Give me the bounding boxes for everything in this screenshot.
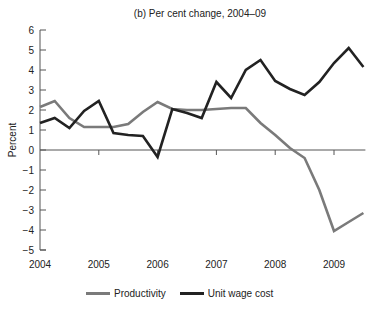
chart-title: (b) Per cent change, 2004–09 [134,8,267,19]
x-tick-label: 2009 [323,259,346,270]
y-tick-label: −2 [23,185,35,196]
y-tick-label: 5 [28,45,34,56]
y-tick-label: −3 [23,205,35,216]
line-chart: (b) Per cent change, 2004–09 Percent 654… [0,0,378,312]
x-axis: 200420052006200720082009 [29,150,366,270]
series-lines [40,48,363,231]
legend-label: Productivity [114,288,166,299]
x-tick-label: 2005 [88,259,111,270]
legend-item-productivity: Productivity [86,288,166,299]
y-tick-label: 4 [28,65,34,76]
x-tick-label: 2007 [205,259,228,270]
y-tick-label: 2 [28,105,34,116]
y-tick-label: −5 [23,245,35,256]
x-tick-label: 2008 [264,259,287,270]
y-tick-label: 0 [28,145,34,156]
y-axis-label: Percent [7,123,18,158]
y-tick-label: 6 [28,25,34,36]
x-tick-label: 2006 [146,259,169,270]
y-axis: 6543210−1−2−3−4−5 [23,25,46,256]
legend: Productivity Unit wage cost [86,288,287,299]
y-tick-label: 1 [28,125,34,136]
y-tick-label: −1 [23,165,35,176]
series-line [40,48,363,157]
legend-item-unit-wage-cost: Unit wage cost [180,288,274,299]
unit-wage-cost-swatch-icon [180,292,204,295]
y-tick-label: −4 [23,225,35,236]
x-tick-label: 2004 [29,259,52,270]
series-line [40,101,363,231]
legend-label: Unit wage cost [208,288,274,299]
y-tick-label: 3 [28,85,34,96]
productivity-swatch-icon [86,292,110,295]
